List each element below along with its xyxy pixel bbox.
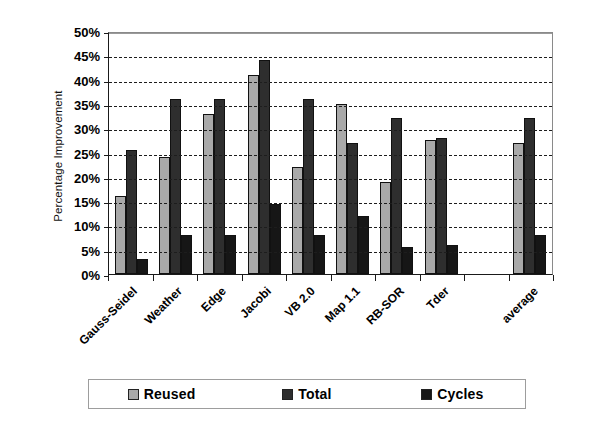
- bar-cycles: [225, 235, 236, 274]
- bar-group: [242, 33, 286, 274]
- bar-cycles: [137, 259, 148, 274]
- gridline: [109, 82, 552, 83]
- bar-group: [375, 33, 419, 274]
- y-axis-tickmark: [104, 227, 109, 228]
- legend-swatch-icon: [128, 389, 139, 400]
- y-axis-tick-label: 40%: [74, 74, 100, 87]
- y-axis-tickmark: [104, 130, 109, 131]
- y-axis-tick-label: 5%: [81, 244, 100, 257]
- bar-reused: [159, 157, 170, 274]
- gridline: [109, 252, 552, 253]
- y-axis-tickmark: [104, 179, 109, 180]
- bar-reused: [203, 114, 214, 274]
- gridline: [109, 130, 552, 131]
- legend-swatch-icon: [282, 389, 293, 400]
- y-axis-tick-label: 25%: [74, 147, 100, 160]
- bar-cycles: [447, 245, 458, 274]
- bar-group: [508, 33, 552, 274]
- y-axis-tickmark: [104, 57, 109, 58]
- legend-swatch-icon: [421, 389, 432, 400]
- bar-total: [347, 143, 358, 274]
- bar-group: [109, 33, 153, 274]
- y-axis-tickmark: [104, 252, 109, 253]
- bar-total: [214, 99, 225, 274]
- gridline: [109, 33, 552, 34]
- gridline: [109, 179, 552, 180]
- y-axis-tick-label: 50%: [74, 26, 100, 39]
- y-axis-tick-label: 30%: [74, 123, 100, 136]
- legend-label: Total: [298, 386, 331, 402]
- bar-total: [436, 138, 447, 274]
- gridline: [109, 57, 552, 58]
- bar-total: [259, 60, 270, 274]
- gridline: [109, 155, 552, 156]
- bar-total: [391, 118, 402, 274]
- y-axis-tick-label: 35%: [74, 98, 100, 111]
- y-axis-tick-label: 10%: [74, 220, 100, 233]
- y-axis-tickmark: [104, 82, 109, 83]
- y-axis-tickmark: [104, 106, 109, 107]
- bar-group: [463, 33, 507, 274]
- y-axis-tick-label: 45%: [74, 50, 100, 63]
- bar-cycles: [314, 235, 325, 274]
- gridline: [109, 106, 552, 107]
- y-axis-tickmark: [104, 33, 109, 34]
- bar-cycles: [358, 216, 369, 274]
- plot-area: [108, 32, 553, 275]
- y-axis-tick-label: 15%: [74, 196, 100, 209]
- y-axis-tick-labels: 50%45%40%35%30%25%20%15%10%5%0%: [55, 32, 104, 275]
- y-axis-tickmark: [104, 203, 109, 204]
- bar-chart: Percentage Improvement 50%45%40%35%30%25…: [0, 0, 610, 432]
- gridline: [109, 203, 552, 204]
- y-axis-tickmark: [104, 155, 109, 156]
- y-axis-tick-label: 0%: [81, 269, 100, 282]
- legend-entry[interactable]: Reused: [89, 386, 234, 402]
- y-axis-tick-label: 20%: [74, 171, 100, 184]
- bar-reused: [513, 143, 524, 274]
- bar-total: [303, 99, 314, 274]
- bar-reused: [292, 167, 303, 274]
- bar-reused: [115, 196, 126, 274]
- bar-reused: [248, 75, 259, 274]
- bar-group: [419, 33, 463, 274]
- legend-label: Cycles: [437, 386, 483, 402]
- gridline: [109, 227, 552, 228]
- bar-reused: [425, 140, 436, 274]
- bar-group: [153, 33, 197, 274]
- bar-group: [330, 33, 374, 274]
- x-axis-category-label: average: [389, 284, 540, 432]
- bar-total: [126, 150, 137, 274]
- x-axis-tickmark: [553, 275, 554, 281]
- bar-cycles: [270, 204, 281, 274]
- bar-total: [524, 118, 535, 274]
- legend-entry[interactable]: Total: [234, 386, 379, 402]
- bar-group: [198, 33, 242, 274]
- bar-groups: [109, 33, 552, 274]
- legend-entry[interactable]: Cycles: [380, 386, 525, 402]
- chart-legend: ReusedTotalCycles: [88, 379, 526, 409]
- bar-cycles: [181, 235, 192, 274]
- bar-cycles: [535, 235, 546, 274]
- legend-label: Reused: [144, 386, 196, 402]
- x-axis-category-labels: Gauss-SeidelWeatherEdgeJacobiVB 2.0Map 1…: [108, 278, 553, 358]
- bar-total: [170, 99, 181, 274]
- bar-group: [286, 33, 330, 274]
